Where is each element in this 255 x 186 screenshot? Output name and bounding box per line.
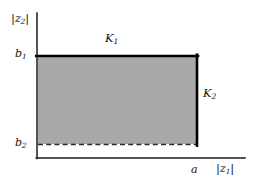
boundary-k1-symbol: K xyxy=(105,31,114,45)
y-axis-title: |z2| xyxy=(11,13,29,25)
boundary-k1-subscript: 1 xyxy=(114,37,119,46)
figure-container: |z2| |z1| b1 b2 a K1 K2 xyxy=(0,0,255,186)
y-tick-label-b1: b1 xyxy=(15,48,27,60)
y-tick-b1-subscript: 1 xyxy=(22,52,27,61)
y-tick-label-b2: b2 xyxy=(15,137,27,149)
y-axis-title-bar-right: | xyxy=(25,11,29,25)
boundary-k2-subscript: 2 xyxy=(212,92,217,101)
boundary-k2-symbol: K xyxy=(203,86,212,100)
y-tick-b2-symbol: b xyxy=(15,136,22,149)
x-tick-label-a: a xyxy=(191,164,198,175)
boundary-label-k2: K2 xyxy=(203,88,216,101)
x-axis-title-bar-right: | xyxy=(230,161,234,175)
shaded-region xyxy=(38,56,197,144)
diagram-canvas xyxy=(0,0,255,186)
y-tick-b1-symbol: b xyxy=(15,47,22,60)
x-axis-title: |z1| xyxy=(216,163,234,175)
boundary-label-k1: K1 xyxy=(105,33,118,46)
y-tick-b2-subscript: 2 xyxy=(22,141,27,150)
